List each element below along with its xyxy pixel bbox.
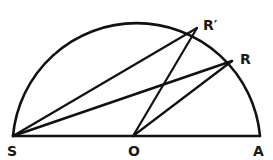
radius-O-R: [133, 61, 232, 136]
label-O: O: [128, 143, 140, 159]
label-R-prime: R′: [203, 17, 218, 33]
semicircle-diagram: S O A R R′: [0, 0, 273, 160]
label-A: A: [253, 143, 264, 159]
radius-O-Rprime: [133, 28, 197, 136]
label-R: R: [240, 51, 251, 67]
label-S: S: [7, 143, 17, 159]
semicircle-arc: [13, 23, 260, 136]
